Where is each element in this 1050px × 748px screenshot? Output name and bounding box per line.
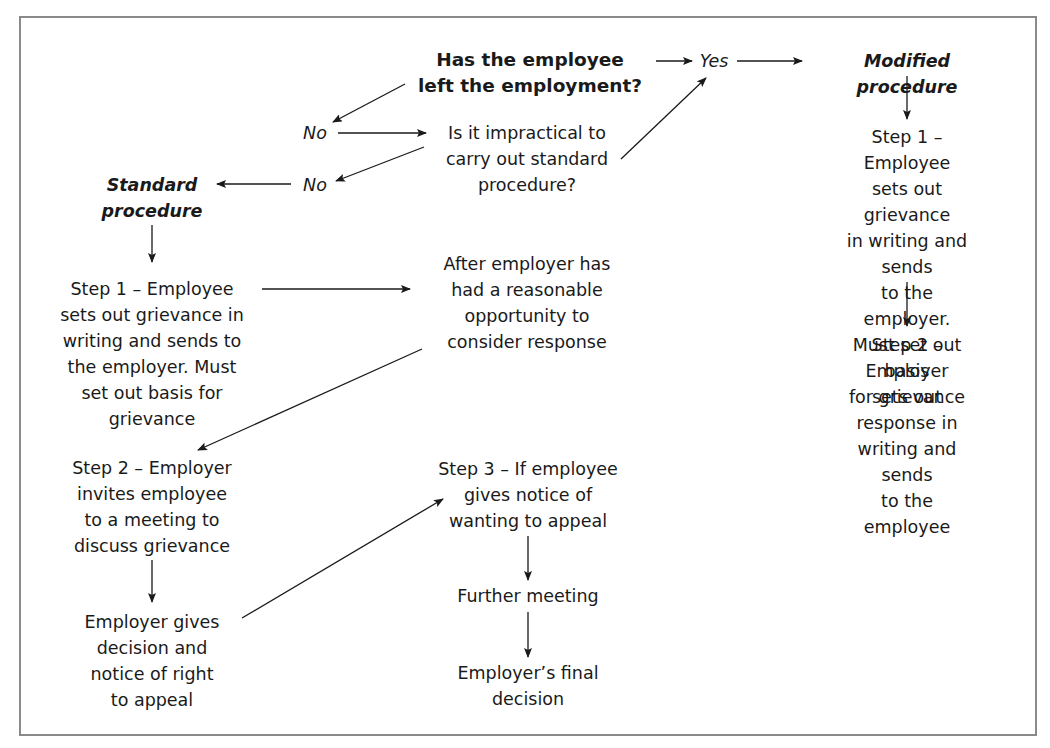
- node-modified-step-2: Step 2 – Employer sets out response in w…: [836, 332, 979, 540]
- node-question-left-employment: Has the employee left the employment?: [418, 47, 642, 99]
- arrow-question-to-no: [333, 84, 405, 122]
- node-no-2: No: [303, 172, 327, 198]
- node-standard-step-2: Step 2 – Employer invites employee to a …: [72, 455, 232, 559]
- node-employer-decision: Employer gives decision and notice of ri…: [85, 609, 220, 713]
- node-question-impractical: Is it impractical to carry out standard …: [446, 120, 608, 198]
- node-no-1: No: [303, 120, 327, 146]
- arrow-decision-to-step3: [242, 499, 443, 618]
- node-after-employer: After employer has had a reasonable oppo…: [444, 251, 611, 355]
- node-further-meeting: Further meeting: [457, 583, 598, 609]
- node-standard-step-3: Step 3 – If employee gives notice of wan…: [438, 456, 618, 534]
- node-yes: Yes: [700, 48, 729, 74]
- node-modified-procedure: Modified procedure: [836, 48, 979, 100]
- arrow-impractical-to-no: [336, 147, 424, 181]
- node-standard-step-1: Step 1 – Employee sets out grievance in …: [60, 276, 244, 432]
- node-final-decision: Employer’s final decision: [457, 660, 598, 712]
- node-standard-procedure: Standard procedure: [102, 172, 203, 224]
